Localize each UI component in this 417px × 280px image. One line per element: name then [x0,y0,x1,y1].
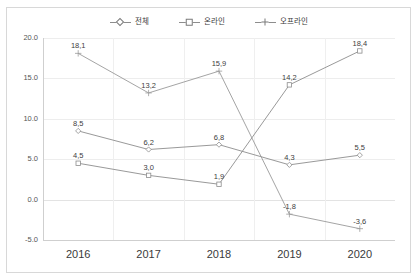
legend-label-online: 온라인 [204,18,225,26]
x-axis-line [43,240,395,241]
data-point-label: 3,0 [143,164,153,172]
y-axis-tick-label: 15.0 [4,74,38,82]
data-point-label: 6,8 [214,134,224,142]
data-point-label: 18,4 [352,40,367,48]
cross-marker-icon [255,18,276,27]
data-point-label: 18,1 [71,42,86,50]
chart-legend: 전체 온라인 오프라인 [0,15,417,29]
data-point-marker [287,162,292,167]
legend-item-online[interactable]: 온라인 [179,18,225,27]
y-axis-tick-label: 20.0 [4,34,38,42]
x-axis-tick-label: 2018 [189,249,249,260]
data-point-label: 15,9 [212,60,227,68]
data-point-marker [286,211,292,217]
y-axis-tick-label: -5.0 [4,236,38,244]
data-point-marker [146,173,150,177]
legend-item-offline[interactable]: 오프라인 [255,18,308,27]
data-point-marker [76,128,81,133]
data-point-label: -1,8 [283,203,296,211]
x-axis-tick-label: 2017 [119,249,179,260]
data-point-marker [216,68,222,74]
data-point-marker [76,161,80,165]
y-axis-tick-label: 5.0 [4,155,38,163]
line-chart: 전체 온라인 오프라인 20.015.010.05.00.0-5.0 20162… [0,0,417,280]
y-axis-tick-label: 10.0 [4,115,38,123]
data-point-marker [75,50,81,56]
data-point-marker [146,147,151,152]
data-point-marker [287,83,291,87]
x-axis-tick-label: 2020 [330,249,390,260]
data-point-marker [216,142,221,147]
data-point-label: 6,2 [143,139,153,147]
data-point-label: -3,6 [353,218,366,226]
data-point-marker [358,49,362,53]
legend-label-total: 전체 [135,18,149,26]
y-axis-tick-label: 0.0 [4,196,38,204]
data-point-label: 4,3 [284,154,294,162]
data-point-label: 5,5 [355,144,365,152]
legend-item-total[interactable]: 전체 [110,18,149,27]
data-point-marker [217,182,221,186]
data-point-marker [357,153,362,158]
data-point-label: 8,5 [73,120,83,128]
data-point-label: 4,5 [73,152,83,160]
data-point-label: 14,2 [282,74,297,82]
data-point-marker [357,225,363,231]
legend-label-offline: 오프라인 [280,18,308,26]
diamond-marker-icon [110,18,131,27]
data-point-label: 1,9 [214,173,224,181]
data-point-label: 13,2 [141,82,156,90]
data-point-marker [145,90,151,96]
x-axis-tick-label: 2016 [48,249,108,260]
square-marker-icon [179,18,200,27]
x-axis-tick-label: 2019 [259,249,319,260]
